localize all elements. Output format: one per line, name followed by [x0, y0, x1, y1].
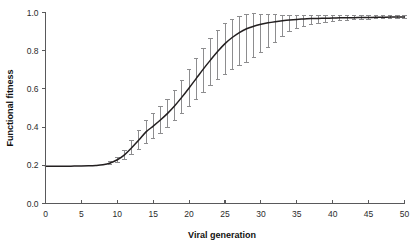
- y-tick-label: 0.4: [27, 122, 39, 132]
- x-tick-label: 25: [220, 209, 230, 219]
- y-tick-label: 0.2: [27, 160, 39, 170]
- x-tick-label: 30: [256, 209, 266, 219]
- sigmoid-fitness-chart: 051015202530354045500.00.20.40.60.81.0 V…: [0, 0, 416, 243]
- x-tick-label: 50: [400, 209, 410, 219]
- tick-marks-group: [42, 13, 405, 204]
- x-axis-title: Viral generation: [188, 230, 256, 240]
- y-tick-label: 1.0: [27, 8, 39, 18]
- x-tick-label: 10: [113, 209, 123, 219]
- x-tick-label: 15: [148, 209, 158, 219]
- y-axis-title: Functional fitness: [5, 69, 15, 146]
- x-tick-label: 20: [184, 209, 194, 219]
- x-tick-label: 40: [328, 209, 338, 219]
- error-bars-group: [108, 14, 407, 164]
- chart-figure: 051015202530354045500.00.20.40.60.81.0 V…: [0, 0, 416, 243]
- x-tick-label: 45: [364, 209, 374, 219]
- y-tick-label: 0.8: [27, 46, 39, 56]
- x-tick-label: 5: [79, 209, 84, 219]
- x-tick-label: 35: [292, 209, 302, 219]
- axes-group: [42, 13, 405, 204]
- y-tick-label: 0.0: [27, 199, 39, 209]
- x-tick-label: 0: [43, 209, 48, 219]
- y-tick-label: 0.6: [27, 84, 39, 94]
